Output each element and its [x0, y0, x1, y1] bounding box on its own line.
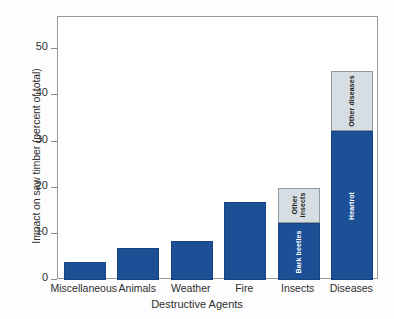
- bar-segment-insects-0[interactable]: Bark beetles: [278, 223, 320, 280]
- bar-weather[interactable]: [171, 241, 213, 280]
- y-tick-20: 20: [0, 187, 57, 188]
- bar-segment-diseases-1[interactable]: Other diseases: [331, 71, 373, 131]
- y-tick-0: 0: [0, 279, 57, 280]
- bar-segment-label: Heartrot: [348, 192, 356, 220]
- y-tick-40: 40: [0, 94, 57, 95]
- y-tick-label: 40: [36, 86, 48, 98]
- bar-segment-label: Other diseases: [348, 76, 356, 128]
- bar-segment-label: Bark beetles: [295, 230, 303, 273]
- bar-segment-animals-0[interactable]: [117, 248, 159, 280]
- y-tick-label: 20: [36, 179, 48, 191]
- bar-animals[interactable]: [117, 248, 159, 280]
- bar-segment-fire-0[interactable]: [224, 202, 266, 280]
- y-tick-mark: [51, 279, 57, 280]
- y-tick-label: 50: [36, 40, 48, 52]
- bar-diseases[interactable]: HeartrotOther diseases: [331, 71, 373, 280]
- bar-fire[interactable]: [224, 202, 266, 280]
- bar-segment-label: Otherinsects: [291, 193, 307, 218]
- x-tick-label-diseases: Diseases: [291, 282, 394, 294]
- x-axis-title: Destructive Agents: [0, 298, 394, 310]
- bar-segment-weather-0[interactable]: [171, 241, 213, 280]
- y-tick-label: 10: [36, 225, 48, 237]
- chart-figure: Impact on saw timber (percent of total) …: [0, 0, 394, 319]
- bar-segment-insects-1[interactable]: Otherinsects: [278, 188, 320, 224]
- y-tick-10: 10: [0, 233, 57, 234]
- y-tick-30: 30: [0, 141, 57, 142]
- plot-area: Bark beetlesOtherinsectsHeartrotOther di…: [57, 16, 378, 279]
- y-tick-label: 30: [36, 133, 48, 145]
- bar-segment-miscellaneous-0[interactable]: [64, 262, 106, 280]
- bar-insects[interactable]: Bark beetlesOtherinsects: [278, 188, 320, 280]
- y-axis-title: Impact on saw timber (percent of total): [30, 36, 42, 276]
- bar-segment-diseases-0[interactable]: Heartrot: [331, 131, 373, 280]
- bar-miscellaneous[interactable]: [64, 262, 106, 280]
- y-tick-50: 50: [0, 48, 57, 49]
